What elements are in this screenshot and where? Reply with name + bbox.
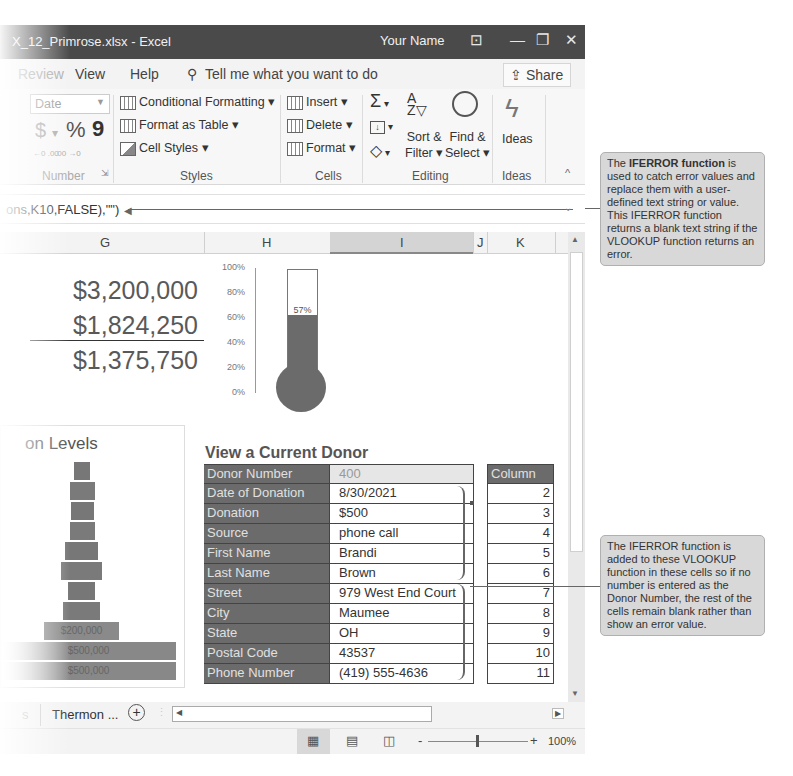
delete-button[interactable]: Delete ▾: [287, 117, 353, 133]
donor-value-cell[interactable]: (419) 555-4636: [329, 664, 474, 684]
horizontal-scrollbar[interactable]: ◀: [172, 706, 432, 722]
column-index-cell[interactable]: 6: [487, 564, 554, 584]
clear-button[interactable]: ◇ ▾: [370, 141, 390, 160]
zoom-out-button[interactable]: -: [418, 733, 422, 748]
page-break-preview-icon[interactable]: ◫: [383, 733, 395, 748]
column-index-cell[interactable]: 8: [487, 604, 554, 624]
chevron-down-icon: ▼: [96, 97, 105, 107]
user-name[interactable]: Your Name: [380, 33, 445, 48]
minimize-icon[interactable]: —: [510, 31, 525, 48]
page-layout-icon[interactable]: ▤: [346, 733, 358, 748]
zoom-slider-thumb[interactable]: [476, 735, 479, 747]
divider: [280, 95, 281, 183]
percent-button[interactable]: %: [66, 117, 86, 143]
insert-cells-icon: [287, 96, 303, 110]
column-index-cell[interactable]: 10: [487, 644, 554, 664]
column-index-cell[interactable]: 5: [487, 544, 554, 564]
normal-view-button[interactable]: ▦: [297, 729, 330, 754]
donor-value-cell[interactable]: OH: [329, 624, 474, 644]
thermometer-value-label: 57%: [288, 305, 317, 315]
thermometer-axis-line: [255, 268, 256, 393]
donor-value-cell[interactable]: $500: [329, 504, 474, 524]
bracket-lower: [455, 584, 465, 680]
column-header-i[interactable]: I: [400, 235, 404, 250]
share-button[interactable]: ⇪ Share: [503, 63, 571, 87]
tell-me-input[interactable]: Tell me what you want to do: [205, 66, 378, 82]
scroll-down-icon[interactable]: ▼: [571, 689, 579, 698]
scroll-up-icon[interactable]: ▲: [571, 235, 579, 244]
formula-text[interactable]: ons,K10,FALSE),""): [6, 202, 119, 217]
column-index-cell[interactable]: 3: [487, 504, 554, 524]
search-icon[interactable]: ⚲: [187, 66, 197, 82]
find-select-button[interactable]: Find &Select ▾: [445, 129, 490, 161]
callout-connector-bottom: [470, 586, 600, 587]
donor-value-cell[interactable]: 979 West End Court: [329, 584, 474, 604]
decrease-decimal-button[interactable]: .00 →0: [55, 149, 75, 158]
zoom-in-button[interactable]: +: [530, 733, 538, 748]
vertical-scrollbar[interactable]: ▲ ▼: [568, 232, 585, 702]
tab-help[interactable]: Help: [130, 66, 159, 82]
zoom-level[interactable]: 100%: [548, 735, 576, 747]
collapse-ribbon-icon[interactable]: ^: [565, 167, 570, 179]
cell-styles-button[interactable]: Cell Styles ▾: [120, 140, 209, 156]
scroll-left-icon[interactable]: ◀: [176, 708, 182, 717]
conditional-formatting-button[interactable]: Conditional Formatting ▾: [120, 94, 275, 110]
donor-value-cell[interactable]: 8/30/2021: [329, 484, 474, 504]
sort-filter-button[interactable]: Sort &Filter ▾: [405, 129, 443, 161]
ideas-lightning-icon: ϟ: [505, 93, 519, 124]
column-header-h[interactable]: H: [262, 235, 271, 250]
donor-value-cell[interactable]: Maumee: [329, 604, 474, 624]
raised-amount[interactable]: $1,824,250: [0, 311, 198, 340]
goal-amount[interactable]: $3,200,000: [0, 276, 198, 305]
number-dialog-launcher-icon[interactable]: ⇲: [101, 168, 109, 178]
fill-button[interactable]: ↓ ▾: [370, 117, 393, 134]
donor-label: Street: [204, 584, 329, 604]
column-index-cell[interactable]: 9: [487, 624, 554, 644]
donor-table-title: View a Current Donor: [205, 444, 368, 462]
ideas-button[interactable]: Ideas: [502, 132, 533, 146]
ribbon-display-icon[interactable]: ⊡: [470, 31, 483, 49]
tab-review[interactable]: Review: [18, 66, 64, 82]
column-header-k[interactable]: K: [516, 235, 525, 250]
donor-value-cell[interactable]: 43537: [329, 644, 474, 664]
donor-value-cell[interactable]: Brown: [329, 564, 474, 584]
thermometer-bulb: [276, 363, 326, 412]
number-format-select[interactable]: Date ▼: [30, 94, 110, 114]
divider: [492, 95, 493, 183]
sheet-tab-thermometer[interactable]: Thermon ...: [52, 707, 118, 722]
insert-button[interactable]: Insert ▾: [287, 94, 348, 110]
format-button[interactable]: Format ▾: [287, 140, 356, 156]
donation-levels-chart[interactable]: on Levels $200,000 $500,000 $500,000: [0, 425, 185, 688]
sheet-tab-partial[interactable]: s: [22, 707, 29, 722]
chart-title: on Levels: [25, 434, 98, 454]
column-index-cell[interactable]: 11: [487, 664, 554, 684]
donor-value-cell[interactable]: Brandi: [329, 544, 474, 564]
add-sheet-icon[interactable]: +: [128, 704, 145, 721]
currency-button[interactable]: $ ▾: [35, 119, 58, 142]
donor-label: State: [204, 624, 329, 644]
delete-cells-icon: [287, 119, 303, 133]
callout-bottom: The IFERROR function is added to these V…: [600, 535, 765, 636]
donor-value-cell[interactable]: phone call: [329, 524, 474, 544]
column-index-cell[interactable]: 4: [487, 524, 554, 544]
close-icon[interactable]: ✕: [565, 31, 578, 49]
tab-splitter-handle[interactable]: ⋮: [156, 706, 167, 719]
autosum-button[interactable]: Σ ▾: [370, 91, 389, 112]
column-header-g[interactable]: G: [100, 235, 110, 250]
column-index-cell[interactable]: 7: [487, 584, 554, 604]
tab-view[interactable]: View: [75, 66, 105, 82]
formula-bar[interactable]: ons,K10,FALSE),"") ◀ ⌄: [0, 194, 585, 224]
comma-style-button[interactable]: 9: [92, 116, 104, 142]
column-header-j[interactable]: J: [477, 235, 484, 250]
grid-icon: ▦: [307, 733, 319, 748]
donor-number-input[interactable]: 400: [329, 464, 474, 484]
scroll-thumb[interactable]: [570, 252, 583, 552]
scroll-right-icon[interactable]: ▶: [552, 708, 564, 719]
remaining-amount[interactable]: $1,375,750: [0, 346, 198, 375]
format-as-table-button[interactable]: Format as Table ▾: [120, 117, 239, 133]
ribbon: Date ▼ $ ▾ % 9 ←0 .00 .00 →0 Number ⇲ Co…: [0, 89, 585, 185]
column-index-cell[interactable]: 2: [487, 484, 554, 504]
increase-decimal-button[interactable]: ←0 .00: [33, 149, 53, 158]
expand-formula-bar-icon[interactable]: ⌄: [564, 202, 572, 213]
restore-icon[interactable]: ❐: [536, 31, 549, 49]
